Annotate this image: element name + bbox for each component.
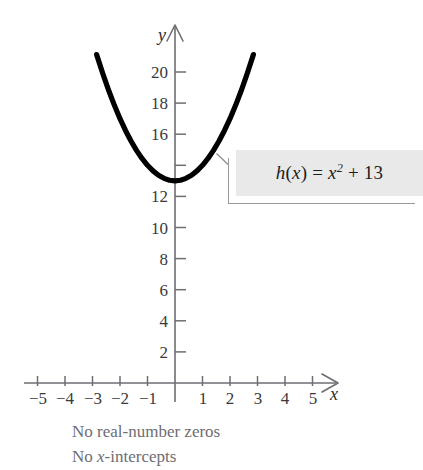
- x-tick-label-3: 3: [254, 390, 263, 407]
- equation-fn-name: h: [276, 163, 286, 184]
- y-tick-label-18: 18: [140, 95, 168, 112]
- y-tick-label-2: 2: [140, 344, 168, 361]
- x-axis-label: x: [330, 385, 338, 403]
- equation-constant: 13: [364, 163, 383, 184]
- equation-base: x: [328, 163, 337, 184]
- caption-line-2-italic-x: x: [97, 447, 105, 466]
- y-tick-label-16: 16: [140, 126, 168, 143]
- equation-arg: x: [292, 163, 301, 184]
- x-tick-label-neg1: −1: [139, 390, 157, 407]
- y-tick-label-8: 8: [140, 251, 168, 268]
- x-tick-label-4: 4: [281, 390, 290, 407]
- x-tick-label-neg2: −2: [111, 390, 129, 407]
- y-axis-ticks: [175, 72, 186, 352]
- y-tick-label-6: 6: [140, 282, 168, 299]
- y-tick-label-4: 4: [140, 313, 168, 330]
- caption-line-2-suffix: -intercepts: [105, 447, 177, 466]
- caption-line-2-prefix: No: [72, 447, 97, 466]
- caption-line-1: No real-number zeros: [72, 420, 220, 445]
- equation-plus: +: [343, 163, 364, 184]
- caption-line-2: No x-intercepts: [72, 445, 220, 470]
- y-tick-label-10: 10: [140, 220, 168, 237]
- x-tick-label-2: 2: [226, 390, 235, 407]
- y-axis-label: y: [158, 26, 166, 44]
- parabola-figure: 20 18 16 12 10 8 6 4 2 −5 −4 −3 −2 −1 1 …: [0, 0, 423, 470]
- equation-equals: =: [307, 163, 328, 184]
- equation-text: h(x) = x2 + 13: [276, 161, 383, 184]
- figure-caption: No real-number zeros No x-intercepts: [72, 420, 220, 469]
- y-tick-label-12: 12: [140, 188, 168, 205]
- x-tick-label-neg4: −4: [56, 390, 74, 407]
- x-tick-label-1: 1: [199, 390, 208, 407]
- x-tick-label-neg3: −3: [84, 390, 102, 407]
- y-tick-label-20: 20: [140, 64, 168, 81]
- x-tick-label-neg5: −5: [29, 390, 47, 407]
- callout-body: h(x) = x2 + 13: [236, 150, 423, 196]
- x-tick-label-5: 5: [309, 390, 318, 407]
